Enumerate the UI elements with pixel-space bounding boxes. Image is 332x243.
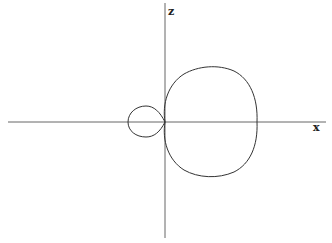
z-axis-label: z	[168, 5, 174, 18]
back-lobe	[128, 106, 165, 137]
polar-diagram: z x	[0, 0, 332, 243]
x-axis-label: x	[313, 121, 320, 134]
